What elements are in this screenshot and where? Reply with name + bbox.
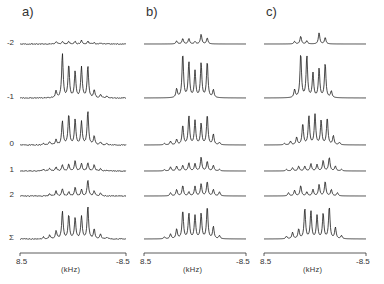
- panel-2: [144, 34, 246, 256]
- spectrum-trace: [20, 161, 126, 172]
- spectrum-trace: [264, 33, 366, 44]
- x-axis-unit: (kHz): [61, 265, 80, 274]
- spectrum-trace: [20, 112, 126, 146]
- spectrum-trace: [144, 116, 246, 145]
- panel-1: [20, 40, 126, 256]
- x-tick-left: 8.5: [260, 257, 271, 266]
- x-tick-left: 8.5: [140, 257, 151, 266]
- spectra-figure: [0, 0, 384, 284]
- spectrum-trace: [264, 208, 366, 239]
- spectrum-trace: [144, 157, 246, 171]
- row-label: -1: [0, 92, 14, 101]
- x-axis-unit: (kHz): [183, 265, 202, 274]
- spectrum-trace: [264, 55, 366, 97]
- row-label: 1: [0, 165, 14, 174]
- panel-3: [264, 33, 366, 256]
- spectrum-trace: [20, 207, 126, 239]
- x-axis-unit: (kHz): [303, 265, 322, 274]
- row-label: Σ: [0, 233, 14, 242]
- spectrum-trace: [264, 182, 366, 196]
- spectrum-trace: [20, 180, 126, 196]
- panel-label: a): [22, 4, 34, 19]
- spectrum-trace: [144, 208, 246, 239]
- spectrum-trace: [20, 40, 126, 44]
- panel-label: c): [266, 4, 277, 19]
- spectrum-trace: [264, 158, 366, 171]
- x-axis: [144, 253, 246, 256]
- spectrum-trace: [144, 182, 246, 196]
- panel-label: b): [146, 4, 158, 19]
- x-axis: [20, 253, 126, 256]
- spectrum-trace: [144, 56, 246, 98]
- row-label: 0: [0, 139, 14, 148]
- x-axis: [264, 253, 366, 256]
- spectrum-trace: [20, 54, 126, 99]
- spectrum-trace: [264, 114, 366, 145]
- x-tick-right: -8.5: [236, 257, 250, 266]
- row-label: -2: [0, 38, 14, 47]
- row-label: 2: [0, 190, 14, 199]
- x-tick-right: -8.5: [116, 257, 130, 266]
- x-tick-right: -8.5: [356, 257, 370, 266]
- x-tick-left: 8.5: [16, 257, 27, 266]
- spectrum-trace: [144, 34, 246, 44]
